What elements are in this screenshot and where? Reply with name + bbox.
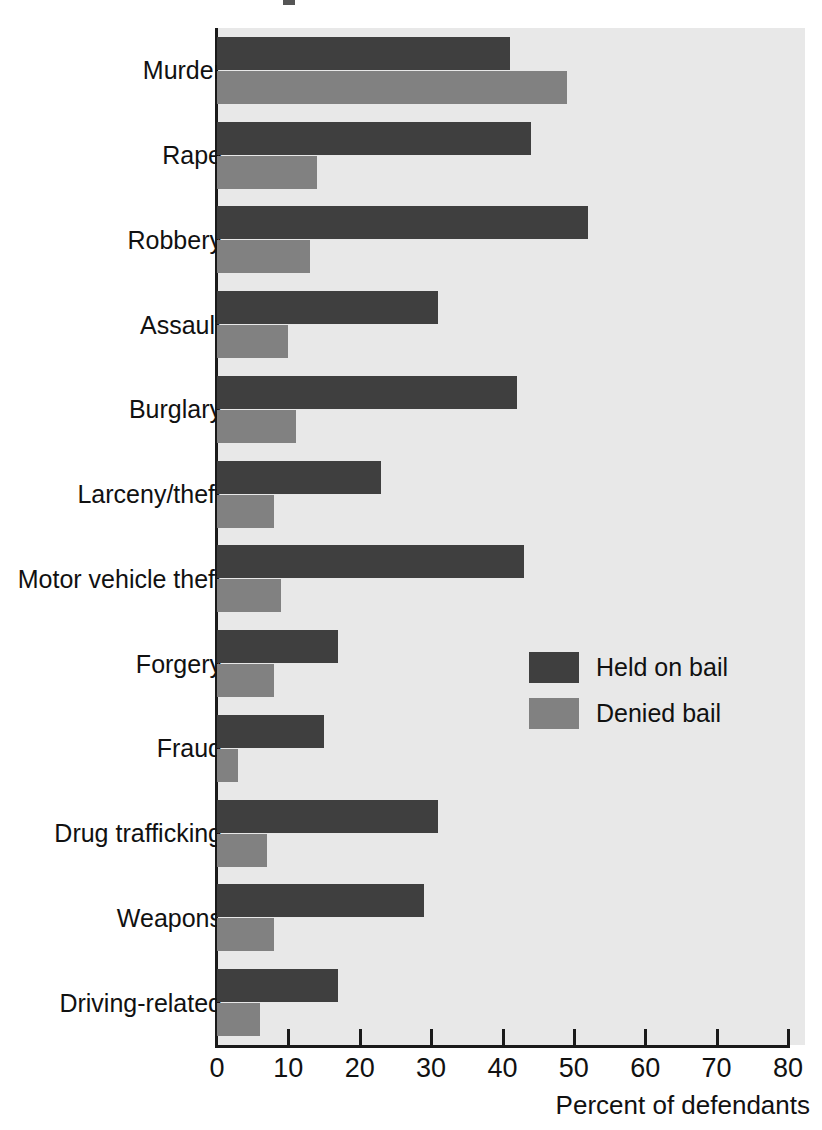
x-axis-tick-label: 70 xyxy=(687,1052,747,1084)
x-axis-tick-label: 10 xyxy=(258,1052,318,1084)
category-label: Fraud xyxy=(0,733,222,763)
bar-held-on-bail xyxy=(217,206,588,239)
category-label: Murder xyxy=(0,55,222,85)
bar-denied-bail xyxy=(217,1003,260,1036)
bar-held-on-bail xyxy=(217,715,324,748)
bar-denied-bail xyxy=(217,579,281,612)
x-axis-tick-label: 80 xyxy=(758,1052,818,1084)
category-label: Burglary xyxy=(0,394,222,424)
bar-held-on-bail xyxy=(217,545,524,578)
bar-denied-bail xyxy=(217,495,274,528)
legend-label-denied-bail: Denied bail xyxy=(596,694,721,732)
x-axis-tick xyxy=(573,1029,576,1046)
bar-held-on-bail xyxy=(217,37,510,70)
category-label: Weapons xyxy=(0,903,222,933)
category-label: Rape xyxy=(0,140,222,170)
category-label: Driving-related xyxy=(0,988,222,1018)
cropped-title-artifact xyxy=(283,0,295,5)
bar-held-on-bail xyxy=(217,291,438,324)
category-label: Larceny/theft xyxy=(0,479,222,509)
horizontal-bar-chart: MurderRapeRobberyAssaultBurglaryLarceny/… xyxy=(0,0,822,1130)
category-label: Robbery xyxy=(0,225,222,255)
category-label: Forgery xyxy=(0,649,222,679)
legend-label-held-on-bail: Held on bail xyxy=(596,648,728,686)
x-axis-tick xyxy=(359,1029,362,1046)
x-axis-tick xyxy=(716,1029,719,1046)
x-axis-tick-label: 30 xyxy=(401,1052,461,1084)
category-label: Drug trafficking xyxy=(0,818,222,848)
category-label: Assault xyxy=(0,310,222,340)
category-label: Motor vehicle theft xyxy=(0,564,222,594)
x-axis-title: Percent of defendants xyxy=(0,1089,810,1121)
x-axis-tick xyxy=(287,1029,290,1046)
bar-denied-bail xyxy=(217,156,317,189)
x-axis-tick xyxy=(787,1029,790,1046)
x-axis-tick xyxy=(430,1029,433,1046)
legend-swatch-denied-bail xyxy=(529,698,579,729)
bar-held-on-bail xyxy=(217,884,424,917)
bar-held-on-bail xyxy=(217,630,338,663)
x-axis-tick-label: 60 xyxy=(615,1052,675,1084)
bar-denied-bail xyxy=(217,749,238,782)
x-axis-tick-label: 40 xyxy=(473,1052,533,1084)
bar-denied-bail xyxy=(217,325,288,358)
legend-swatch-held-on-bail xyxy=(529,652,579,683)
bar-denied-bail xyxy=(217,918,274,951)
bar-denied-bail xyxy=(217,834,267,867)
x-axis-tick-label: 20 xyxy=(330,1052,390,1084)
bar-held-on-bail xyxy=(217,800,438,833)
x-axis-tick-label: 50 xyxy=(544,1052,604,1084)
bar-denied-bail xyxy=(217,664,274,697)
bar-denied-bail xyxy=(217,71,567,104)
bar-held-on-bail xyxy=(217,122,531,155)
bar-denied-bail xyxy=(217,240,310,273)
bar-denied-bail xyxy=(217,410,296,443)
x-axis-tick-label: 0 xyxy=(187,1052,247,1084)
bar-held-on-bail xyxy=(217,461,381,494)
bar-held-on-bail xyxy=(217,969,338,1002)
bar-held-on-bail xyxy=(217,376,517,409)
x-axis-tick xyxy=(502,1029,505,1046)
x-axis-tick xyxy=(644,1029,647,1046)
